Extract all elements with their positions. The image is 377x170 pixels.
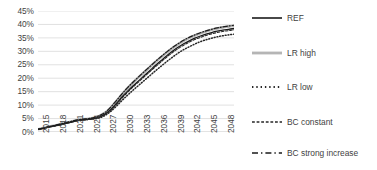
x-axis-tick-label: 2045 — [210, 115, 218, 133]
legend-item[interactable]: LR high — [252, 47, 316, 59]
y-axis-tick-label: 0% — [22, 128, 34, 136]
legend-item-label: LR high — [287, 49, 316, 58]
y-axis-tick-label: 40% — [17, 20, 34, 28]
x-axis-tick-label: 2048 — [227, 115, 235, 133]
y-axis-tick-label: 10% — [17, 101, 34, 109]
chart-container: 0%5%10%15%20%25%30%35%40%45% 20152018202… — [0, 0, 377, 170]
x-axis-tick-label: 2018 — [59, 115, 67, 133]
legend-line-swatch — [252, 13, 282, 23]
x-axis-tick-label: 2036 — [160, 115, 168, 133]
legend-line-swatch — [252, 117, 282, 127]
y-axis-tick-label: 20% — [17, 74, 34, 82]
x-axis-tick-label: 2027 — [109, 115, 117, 133]
x-axis-tick-label: 2033 — [143, 115, 151, 133]
legend-line-swatch — [252, 148, 282, 158]
legend-item[interactable]: REF — [252, 12, 304, 24]
legend-item[interactable]: LR low — [252, 81, 313, 93]
x-axis: 2015201820212024202720302033203620392042… — [38, 133, 234, 170]
series-lines — [38, 11, 234, 132]
legend-item[interactable]: BC strong increase — [252, 147, 358, 159]
legend-item[interactable]: BC constant — [252, 116, 333, 128]
legend-item-label: REF — [287, 14, 304, 23]
y-axis-tick-label: 30% — [17, 47, 34, 55]
series-line — [38, 26, 234, 130]
x-axis-tick-label: 2015 — [42, 115, 50, 133]
plot-area — [38, 11, 234, 132]
legend-item-label: BC constant — [287, 118, 333, 127]
y-axis-tick-label: 25% — [17, 60, 34, 68]
chart-legend: REFLR highLR lowBC constantBC strong inc… — [252, 0, 377, 170]
y-axis-tick-label: 35% — [17, 34, 34, 42]
y-axis-tick-label: 45% — [17, 7, 34, 15]
y-axis-tick-label: 15% — [17, 87, 34, 95]
legend-line-swatch — [252, 48, 282, 58]
x-axis-tick-label: 2021 — [76, 115, 84, 133]
x-axis-tick-label: 2039 — [177, 115, 185, 133]
legend-item-label: LR low — [287, 83, 313, 92]
y-axis-tick-label: 5% — [22, 114, 34, 122]
legend-line-swatch — [252, 82, 282, 92]
legend-item-label: BC strong increase — [287, 149, 358, 158]
x-axis-tick-label: 2024 — [93, 115, 101, 133]
x-axis-tick-label: 2042 — [193, 115, 201, 133]
x-axis-tick-label: 2030 — [126, 115, 134, 133]
y-axis: 0%5%10%15%20%25%30%35%40%45% — [0, 0, 36, 145]
